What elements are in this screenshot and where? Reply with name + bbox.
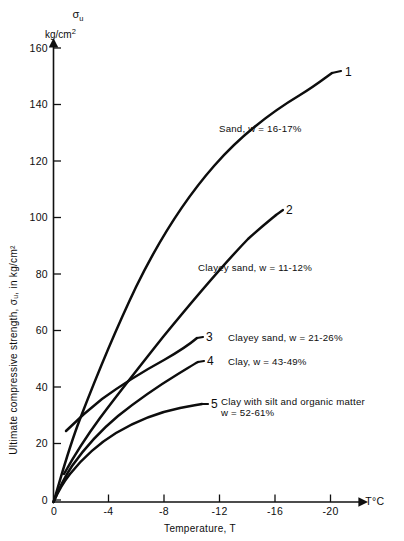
x-tick-label-minus16: -16 (267, 505, 283, 517)
x-tick-label-minus12: -12 (211, 505, 227, 517)
leader-4 (198, 361, 204, 362)
y-axis-ticks (54, 48, 62, 500)
leader-2 (276, 210, 283, 215)
curve-number-5: 5 (211, 397, 218, 411)
leader-1 (332, 71, 341, 73)
curve-series-3 (66, 338, 197, 431)
series-labels: Sand, w = 16-17% Clayey sand, w = 11-12%… (198, 123, 365, 418)
series-label-3: Clayey sand, w = 21-26% (228, 332, 343, 343)
x-tick-label-minus20: -20 (322, 505, 338, 517)
series-label-2: Clayey sand, w = 11-12% (198, 262, 312, 273)
x-axis-ticks (109, 495, 331, 503)
curve-number-2: 2 (286, 203, 293, 217)
y-tick-label-20: 20 (36, 437, 48, 449)
x-tick-label-0: 0 (51, 505, 57, 517)
curve-number-1: 1 (345, 65, 352, 79)
series-label-4: Clay, w = 43-49% (228, 356, 307, 367)
x-tick-label-minus8: -8 (159, 505, 169, 517)
x-axis-title: Temperature, T (164, 523, 236, 534)
y-tick-label-80: 80 (36, 268, 48, 280)
y-axis-tick-labels: 160 140 120 100 80 60 40 20 0 (30, 42, 48, 506)
y-tick-label-120: 120 (30, 155, 48, 167)
chart-canvas: 160 140 120 100 80 60 40 20 0 0 -4 -8 -1… (0, 0, 404, 541)
y-tick-label-100: 100 (30, 211, 48, 223)
series-label-5-line1: Clay with silt and organic matter (221, 396, 365, 407)
leader-3 (197, 337, 203, 338)
y-tick-label-160: 160 (30, 42, 48, 54)
y-axis-symbol: σu (73, 8, 84, 23)
curve-number-4: 4 (207, 354, 214, 368)
x-tick-label-minus4: -4 (104, 505, 114, 517)
annotation-leaders (197, 71, 341, 404)
curve-number-3: 3 (206, 330, 213, 344)
series-label-1: Sand, w = 16-17% (219, 123, 302, 134)
y-tick-label-60: 60 (36, 324, 48, 336)
y-tick-label-0: 0 (42, 494, 48, 506)
y-tick-label-140: 140 (30, 98, 48, 110)
y-axis-title: Ultimate compressive strength, σᵤ, in kg… (8, 245, 19, 455)
y-axis-unit: kg/cm2 (45, 27, 76, 40)
x-axis-arrow-label: -T°C (362, 495, 385, 507)
x-axis-tick-labels: 0 -4 -8 -12 -16 -20 (51, 505, 339, 517)
figure-container: 160 140 120 100 80 60 40 20 0 0 -4 -8 -1… (0, 0, 404, 541)
data-curves (54, 73, 333, 502)
series-label-5-line2: w = 52-61% (220, 407, 275, 418)
y-tick-label-40: 40 (36, 381, 48, 393)
